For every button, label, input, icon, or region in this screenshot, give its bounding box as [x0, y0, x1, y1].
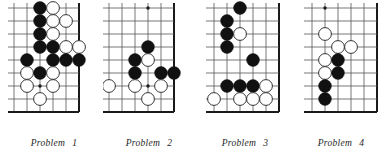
black-stone[interactable]	[319, 93, 332, 106]
black-stone[interactable]	[21, 54, 34, 67]
black-stone[interactable]	[247, 54, 260, 67]
black-stone[interactable]	[34, 41, 47, 54]
white-stone[interactable]	[34, 93, 47, 106]
black-stone[interactable]	[155, 67, 168, 80]
black-stone[interactable]	[221, 28, 234, 41]
caption-label: Problem	[222, 138, 256, 148]
black-stone[interactable]	[221, 80, 234, 93]
black-stone[interactable]	[221, 15, 234, 28]
problem-panel-4: Problem4	[295, 0, 387, 132]
black-stone[interactable]	[129, 54, 142, 67]
problem-panel-1: Problem1	[8, 0, 100, 132]
black-stone[interactable]	[332, 67, 345, 80]
black-stone[interactable]	[129, 67, 142, 80]
white-stone[interactable]	[21, 67, 34, 80]
black-stone[interactable]	[332, 54, 345, 67]
problem-panel-3: Problem3	[199, 0, 291, 132]
star-point-icon	[146, 84, 149, 87]
black-stone[interactable]	[73, 54, 86, 67]
board-grid-1	[8, 0, 100, 132]
black-stone[interactable]	[34, 28, 47, 41]
white-stone[interactable]	[345, 41, 358, 54]
black-stone[interactable]	[47, 41, 60, 54]
black-stone[interactable]	[319, 80, 332, 93]
white-stone[interactable]	[73, 41, 86, 54]
white-stone[interactable]	[319, 67, 332, 80]
black-stone[interactable]	[234, 2, 247, 15]
star-points	[38, 84, 41, 87]
white-stone[interactable]	[142, 54, 155, 67]
white-stone[interactable]	[47, 2, 60, 15]
go-board-3[interactable]	[199, 0, 291, 132]
caption-number: 2	[167, 138, 172, 148]
black-stone[interactable]	[247, 80, 260, 93]
go-board-4[interactable]	[295, 0, 387, 132]
problem-caption-1: Problem1	[8, 138, 100, 148]
white-stone[interactable]	[21, 80, 34, 93]
go-problem-figure: Problem1Problem2Problem3Problem4	[0, 0, 390, 165]
white-stone[interactable]	[47, 28, 60, 41]
white-stone[interactable]	[47, 80, 60, 93]
white-stone[interactable]	[60, 15, 73, 28]
go-board-1[interactable]	[8, 0, 100, 132]
black-stone[interactable]	[34, 67, 47, 80]
board-grid-2	[103, 0, 195, 132]
black-stone[interactable]	[34, 2, 47, 15]
black-stone[interactable]	[34, 15, 47, 28]
white-stone[interactable]	[155, 80, 168, 93]
caption-label: Problem	[31, 138, 65, 148]
white-stone[interactable]	[47, 67, 60, 80]
white-stone[interactable]	[208, 93, 221, 106]
white-stone[interactable]	[47, 15, 60, 28]
white-stone[interactable]	[260, 80, 273, 93]
black-stone[interactable]	[221, 41, 234, 54]
white-stone[interactable]	[260, 93, 273, 106]
white-stone[interactable]	[129, 80, 142, 93]
white-stone[interactable]	[234, 93, 247, 106]
problem-caption-2: Problem2	[103, 138, 195, 148]
white-stone[interactable]	[319, 28, 332, 41]
white-stone[interactable]	[319, 54, 332, 67]
star-point-icon	[38, 84, 41, 87]
white-stone[interactable]	[234, 28, 247, 41]
problem-panel-2: Problem2	[103, 0, 195, 132]
black-stone[interactable]	[168, 67, 181, 80]
board-grid-4	[295, 0, 387, 132]
caption-number: 4	[359, 138, 364, 148]
white-stone[interactable]	[247, 93, 260, 106]
problem-caption-3: Problem3	[199, 138, 291, 148]
go-board-2[interactable]	[103, 0, 195, 132]
black-stone[interactable]	[47, 54, 60, 67]
white-stone[interactable]	[103, 80, 115, 93]
black-stone[interactable]	[142, 41, 155, 54]
white-stone[interactable]	[60, 41, 73, 54]
white-stone[interactable]	[142, 93, 155, 106]
caption-label: Problem	[318, 138, 352, 148]
stones	[21, 2, 86, 106]
white-stone[interactable]	[332, 41, 345, 54]
problem-caption-4: Problem4	[295, 138, 387, 148]
black-stone[interactable]	[234, 80, 247, 93]
black-stone[interactable]	[60, 54, 73, 67]
star-point-icon	[323, 6, 326, 9]
star-point-icon	[146, 6, 149, 9]
board-grid-3	[199, 0, 291, 132]
caption-number: 3	[263, 138, 268, 148]
caption-label: Problem	[126, 138, 160, 148]
caption-number: 1	[72, 138, 77, 148]
star-points	[323, 6, 326, 9]
